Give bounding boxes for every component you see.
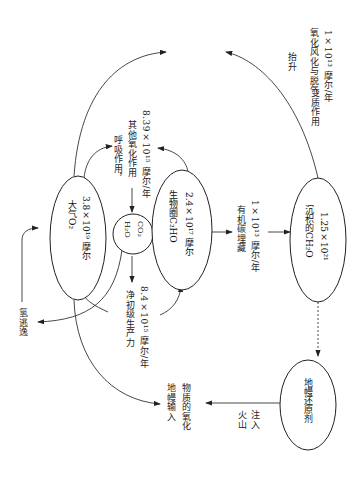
respiration-line1: 呼吸作用，: [112, 135, 123, 183]
atmosphere-value-label: 3.8×10¹⁹ 摩尔: [80, 196, 92, 260]
metamorphism-label: 变质作用: [309, 88, 320, 126]
burial-line1: 有机碳埋藏: [235, 205, 246, 253]
sediment-value: 1.25×10²¹: [318, 212, 330, 261]
line-hydrogen-escape: [22, 228, 38, 302]
biosphere-name: 生物圈C₂HO: [167, 190, 179, 243]
respiration-line2: 其他氧化作用: [126, 120, 137, 177]
biosphere-value: 2.4×10¹⁷ 摩尔: [183, 192, 195, 256]
atmosphere-value: 3.8×10¹⁹ 摩尔: [81, 196, 91, 260]
node-biosphere: [152, 170, 212, 290]
respiration-line3: 8.39×10¹⁵ 摩尔/年: [140, 110, 151, 199]
weathering-line1: 氧化风化与脱气: [308, 28, 319, 95]
npp-line1: 净初级生产力: [124, 290, 135, 347]
node-atmosphere: [50, 176, 106, 300]
mantle-input-line1: 地幔输入: [165, 383, 176, 421]
uplift-label: 抬升: [286, 52, 297, 71]
burial-line2: 1×10¹³ 摩尔/年: [249, 200, 260, 273]
mantle-input-line2: 物质的氧化: [180, 383, 191, 431]
co2-label: CO₂: [134, 221, 146, 237]
volcanic-line1: 火山: [236, 410, 247, 429]
volcanic-line2: 注入: [249, 410, 260, 429]
atmosphere-label: 大气O₂: [66, 200, 78, 229]
oxygen-cycle-diagram: 大气O₂ 3.8×10¹⁹ 摩尔 H₂O CO₂ 生物圈C₂HO 2.4×10¹…: [0, 0, 356, 478]
arrow-biosphere-to-respiration: [158, 148, 188, 172]
weathering-line2: 1×10¹³ 摩尔/年: [322, 30, 333, 103]
water-label: H₂O: [121, 221, 133, 238]
mantle-name: 地幔还原剂: [302, 378, 314, 423]
hydrogen-escape-label: 氢逃逸: [17, 308, 28, 337]
arrow-npp-to-biosphere: [160, 286, 181, 315]
npp-line2: 8.4×10¹⁵ 摩尔/年: [138, 286, 149, 368]
sediment-name: 沉积的CH₂O: [303, 205, 315, 258]
atmosphere-name: 大气O₂: [67, 200, 77, 229]
arrow-atmosphere-to-respiration: [84, 146, 112, 178]
arrow-sediment-uplift: [226, 52, 318, 178]
node-water-co2: [113, 214, 153, 254]
